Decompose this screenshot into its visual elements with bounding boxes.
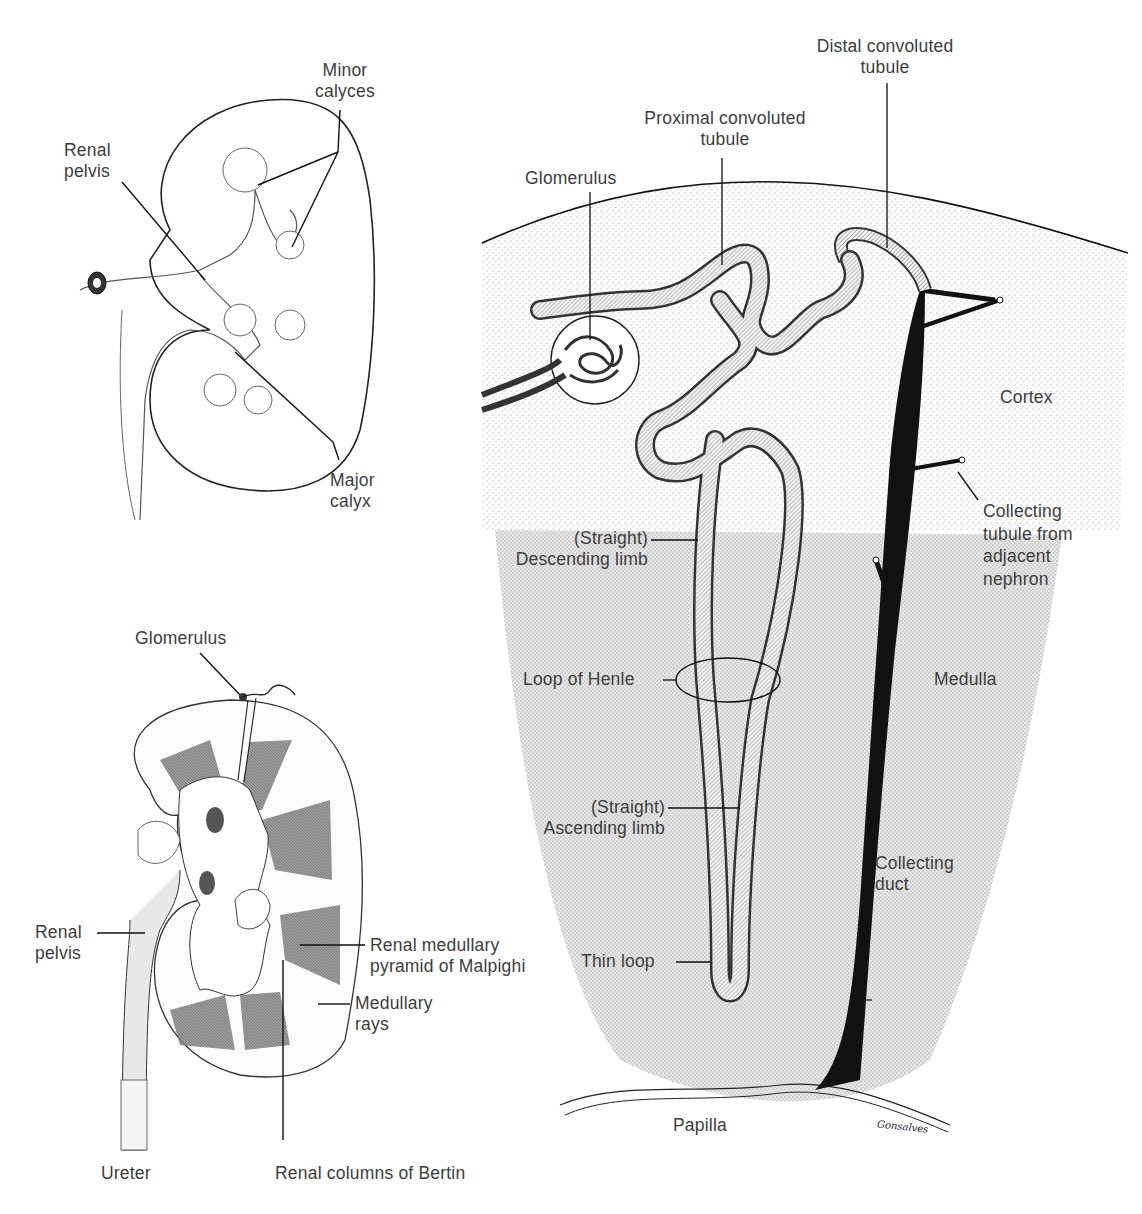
label-line: tubule: [615, 129, 835, 150]
label-line: Distal convoluted: [795, 36, 975, 57]
label-line: (Straight): [480, 528, 648, 549]
label-line: Descending limb: [480, 549, 648, 570]
label-line: Collecting: [983, 500, 1073, 523]
label-line: Major: [330, 470, 375, 491]
label-renal-pelvis-top: Renal pelvis: [64, 140, 111, 182]
label-line: (Straight): [480, 797, 665, 818]
label-collecting-duct: Collecting duct: [875, 853, 954, 895]
label-line: calyces: [305, 81, 385, 102]
label-line: nephron: [983, 568, 1073, 591]
label-distal-convoluted-tubule: Distal convoluted tubule: [795, 36, 975, 78]
label-line: pelvis: [35, 943, 82, 964]
label-line: Minor: [305, 60, 385, 81]
label-glomerulus-nephron: Glomerulus: [525, 168, 616, 189]
label-line: Ascending limb: [480, 818, 665, 839]
label-medullary-rays: Medullary rays: [355, 993, 433, 1035]
label-thin-loop: Thin loop: [581, 951, 655, 972]
label-glomerulus-section: Glomerulus: [135, 628, 226, 649]
label-proximal-convoluted-tubule: Proximal convoluted tubule: [615, 108, 835, 150]
label-line: calyx: [330, 491, 375, 512]
label-papilla: Papilla: [673, 1115, 727, 1136]
kidney-section-drawing: [97, 653, 365, 1150]
label-line: adjacent: [983, 545, 1073, 568]
label-major-calyx: Major calyx: [330, 470, 375, 512]
label-line: Proximal convoluted: [615, 108, 835, 129]
label-line: Collecting: [875, 853, 954, 874]
label-minor-calyces: Minor calyces: [305, 60, 385, 102]
label-line: rays: [355, 1014, 433, 1035]
label-cortex: Cortex: [1000, 387, 1053, 408]
label-descending-limb: (Straight) Descending limb: [480, 528, 648, 570]
label-ureter: Ureter: [101, 1163, 151, 1184]
label-line: Medullary: [355, 993, 433, 1014]
label-line: tubule: [795, 57, 975, 78]
label-renal-pyramid: Renal medullary pyramid of Malpighi: [370, 935, 526, 977]
label-collecting-tubule: Collecting tubule from adjacent nephron: [983, 500, 1073, 590]
nephron-drawing: [482, 83, 1128, 1132]
label-renal-pelvis-section: Renal pelvis: [35, 922, 82, 964]
label-renal-columns: Renal columns of Bertin: [275, 1163, 465, 1184]
label-line: Renal: [35, 922, 82, 943]
label-loop-of-henle: Loop of Henle: [523, 669, 635, 690]
kidney-collecting-system-drawing: [80, 100, 374, 520]
label-ascending-limb: (Straight) Ascending limb: [480, 797, 665, 839]
label-line: pyramid of Malpighi: [370, 956, 526, 977]
label-line: Renal medullary: [370, 935, 526, 956]
label-line: Renal: [64, 140, 111, 161]
label-line: tubule from: [983, 523, 1073, 546]
label-medulla: Medulla: [934, 669, 997, 690]
label-line: pelvis: [64, 161, 111, 182]
label-line: duct: [875, 874, 954, 895]
